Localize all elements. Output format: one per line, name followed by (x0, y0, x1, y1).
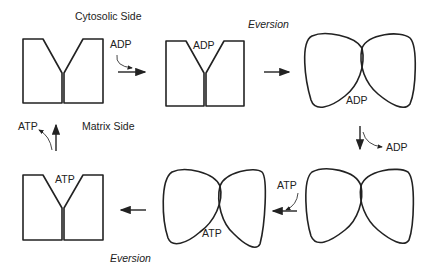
adp-bound-c-label: ADP (193, 39, 215, 51)
atp-bound-c-label: ATP (55, 173, 75, 185)
atp-bound-m-label: ATP (202, 227, 222, 239)
cytosolic-side-label: Cytosolic Side (75, 10, 142, 22)
adp-atp-carrier-cycle-diagram: Cytosolic Side Eversion ADP ADP ADP ADP … (0, 0, 432, 276)
atp-binding-arrow (286, 193, 298, 210)
adp-binding-arrow (117, 55, 132, 68)
atp-in-label: ATP (277, 179, 297, 191)
adp-release-arrow (363, 132, 382, 147)
carrier-m-state-empty (306, 169, 414, 243)
eversion-top-label: Eversion (248, 18, 289, 30)
eversion-bottom-label: Eversion (110, 252, 151, 264)
adp-bound-m-label: ADP (346, 94, 368, 106)
adp-in-label: ADP (110, 38, 132, 50)
carrier-c-state-empty (23, 39, 103, 103)
adp-out-label: ADP (386, 141, 408, 153)
matrix-side-label: Matrix Side (82, 120, 135, 132)
atp-out-label: ATP (18, 120, 38, 132)
atp-release-arrow (39, 130, 52, 150)
